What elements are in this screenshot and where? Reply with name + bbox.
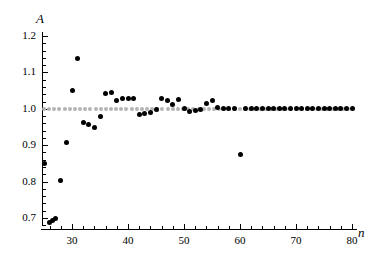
x-axis-tick <box>184 224 185 229</box>
data-point <box>193 108 198 113</box>
data-point <box>148 110 153 115</box>
plot-area: 0.70.80.91.01.11.2304050607080 <box>0 0 374 257</box>
y-axis-minor-tick <box>43 102 46 103</box>
data-point <box>142 111 147 116</box>
reference-line-dot <box>166 107 170 111</box>
y-axis-tick-label: 1.0 <box>0 103 36 114</box>
reference-line-dot <box>109 107 113 111</box>
reference-line-dot <box>78 107 82 111</box>
data-point <box>176 97 181 102</box>
data-point <box>187 109 192 114</box>
y-axis-minor-tick <box>43 94 46 95</box>
y-axis-tick <box>43 72 48 73</box>
data-point <box>238 152 243 157</box>
reference-line-dot <box>114 107 118 111</box>
y-axis-minor-tick <box>43 116 46 117</box>
data-point <box>70 88 75 93</box>
y-axis-minor-tick <box>43 65 46 66</box>
x-axis-minor-tick <box>251 226 252 229</box>
y-axis-minor-tick <box>43 138 46 139</box>
x-axis-minor-tick <box>83 226 84 229</box>
data-point <box>305 106 310 111</box>
reference-line-dot <box>47 107 51 111</box>
data-point <box>58 178 63 183</box>
reference-line-dot <box>238 107 242 111</box>
reference-line-dot <box>88 107 92 111</box>
y-axis-tick-label: 1.1 <box>0 66 36 77</box>
data-point <box>232 106 237 111</box>
x-axis-minor-tick <box>150 226 151 229</box>
data-point <box>266 106 271 111</box>
reference-line-dot <box>160 107 164 111</box>
data-point <box>103 91 108 96</box>
scatter-chart-figure: 0.70.80.91.01.11.2304050607080 A n <box>0 0 374 257</box>
x-axis-minor-tick <box>206 226 207 229</box>
x-axis-minor-tick <box>61 226 62 229</box>
x-axis-tick <box>296 224 297 229</box>
y-axis-tick <box>43 145 48 146</box>
reference-line-dot <box>124 107 128 111</box>
reference-line-dot <box>104 107 108 111</box>
data-point <box>64 140 69 145</box>
data-point <box>350 106 355 111</box>
x-axis-tick-label: 30 <box>52 235 92 246</box>
y-axis-minor-tick <box>43 167 46 168</box>
x-axis-minor-tick <box>330 226 331 229</box>
data-point <box>120 96 125 101</box>
data-point <box>221 106 226 111</box>
y-axis-minor-tick <box>43 87 46 88</box>
data-point <box>137 112 142 117</box>
data-point <box>322 106 327 111</box>
data-point <box>42 161 47 166</box>
data-point <box>126 96 131 101</box>
reference-line-dot <box>42 107 46 111</box>
y-axis-title: A <box>36 12 44 25</box>
data-point <box>299 106 304 111</box>
y-axis-minor-tick <box>43 211 46 212</box>
x-axis-minor-tick <box>274 226 275 229</box>
data-point <box>81 120 86 125</box>
data-point <box>154 107 159 112</box>
x-axis-tick-label: 70 <box>276 235 316 246</box>
reference-line-dot <box>207 107 211 111</box>
data-point <box>109 90 114 95</box>
x-axis-tick <box>240 224 241 229</box>
y-axis-minor-tick <box>43 203 46 204</box>
data-point <box>243 106 248 111</box>
reference-line-dot <box>176 107 180 111</box>
x-axis-minor-tick <box>106 226 107 229</box>
x-axis-title: n <box>358 226 365 239</box>
reference-line-dot <box>83 107 87 111</box>
data-point <box>170 102 175 107</box>
data-point <box>53 216 58 221</box>
x-axis-tick <box>128 224 129 229</box>
x-axis-minor-tick <box>195 226 196 229</box>
data-point <box>210 98 215 103</box>
reference-line-dot <box>57 107 61 111</box>
x-axis-minor-tick <box>285 226 286 229</box>
y-axis-minor-tick <box>43 189 46 190</box>
y-axis-tick-label: 0.9 <box>0 139 36 150</box>
reference-line-dot <box>119 107 123 111</box>
data-point <box>198 107 203 112</box>
x-axis-minor-tick <box>94 226 95 229</box>
y-axis-minor-tick <box>43 58 46 59</box>
reference-line-dot <box>68 107 72 111</box>
x-axis-minor-tick <box>50 226 51 229</box>
x-axis-tick-label: 40 <box>108 235 148 246</box>
y-axis-tick <box>43 182 48 183</box>
data-point <box>114 98 119 103</box>
x-axis-tick <box>352 224 353 229</box>
x-axis-minor-tick <box>173 226 174 229</box>
y-axis-minor-tick <box>43 152 46 153</box>
reference-line-dot <box>171 107 175 111</box>
reference-line-dot <box>63 107 67 111</box>
reference-line-dot <box>99 107 103 111</box>
data-point <box>182 106 187 111</box>
y-axis-minor-tick <box>43 131 46 132</box>
x-axis-minor-tick <box>318 226 319 229</box>
x-axis-minor-tick <box>229 226 230 229</box>
x-axis-tick-label: 60 <box>220 235 260 246</box>
x-axis-minor-tick <box>162 226 163 229</box>
data-point <box>92 125 97 130</box>
